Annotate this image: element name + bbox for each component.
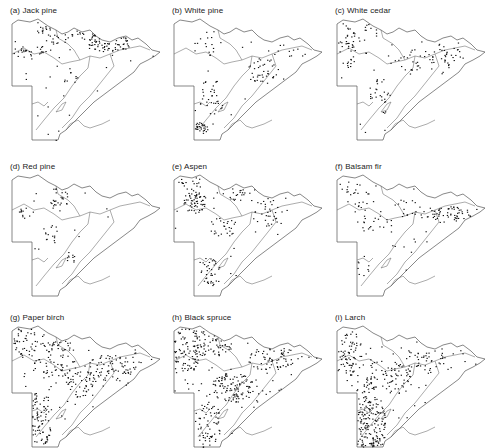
map-panel-i: (i) Larch [335, 313, 491, 448]
region-boundary [56, 30, 80, 60]
lake-outline [218, 258, 228, 268]
region-boundary [194, 258, 210, 262]
region-boundary [198, 363, 252, 437]
map-panel-a: (a) Jack pine [10, 6, 170, 156]
region-boundary [66, 120, 110, 130]
region-boundary [391, 427, 435, 437]
region-boundary [66, 427, 110, 437]
region-boundary [361, 212, 415, 286]
region-boundary [66, 276, 110, 286]
region-outline [174, 175, 322, 296]
region-outline [174, 19, 322, 140]
region-boundary [391, 120, 435, 130]
region-boundary [337, 202, 475, 220]
region-outline [12, 175, 160, 296]
lake-outline [381, 102, 391, 112]
region-boundary [36, 212, 90, 286]
region-map [335, 162, 491, 302]
region-boundary [56, 337, 80, 367]
region-boundary [228, 120, 272, 130]
region-boundary [337, 353, 475, 371]
lake-outline [56, 258, 66, 268]
region-outline [337, 175, 485, 296]
region-boundary [391, 276, 435, 286]
region-outline [12, 19, 160, 140]
map-panel-b: (b) White pine [172, 6, 332, 156]
region-map [172, 162, 332, 302]
occurrence-points [14, 329, 153, 445]
region-boundary [381, 30, 405, 60]
occurrence-points [175, 177, 288, 286]
map-panel-c: (c) White cedar [335, 6, 491, 156]
region-boundary [36, 56, 90, 130]
lake-outline [218, 102, 228, 112]
region-boundary [224, 54, 276, 128]
region-boundary [62, 54, 114, 128]
region-boundary [12, 353, 150, 371]
region-boundary [381, 186, 405, 216]
lake-outline [381, 258, 391, 268]
region-map [172, 313, 332, 448]
region-boundary [228, 276, 272, 286]
region-map [10, 6, 170, 146]
occurrence-points [338, 331, 477, 447]
region-map [335, 313, 491, 448]
map-panel-h: (h) Black spruce [172, 313, 332, 448]
map-panel-d: (d) Red pine [10, 162, 170, 312]
map-panel-g: (g) Paper birch [10, 313, 170, 448]
region-boundary [361, 363, 415, 437]
lake-outline [56, 102, 66, 112]
map-panel-e: (e) Aspen [172, 162, 332, 312]
region-boundary [218, 30, 242, 60]
region-boundary [56, 186, 80, 216]
region-map [10, 313, 170, 448]
region-boundary [381, 337, 405, 367]
region-boundary [228, 427, 272, 437]
region-boundary [12, 202, 150, 220]
region-map [10, 162, 170, 302]
region-boundary [357, 258, 373, 262]
region-boundary [62, 210, 114, 284]
region-boundary [32, 102, 48, 106]
region-map [172, 6, 332, 146]
region-boundary [218, 186, 242, 216]
lake-outline [381, 409, 391, 419]
region-boundary [32, 258, 48, 262]
map-panel-f: (f) Balsam fir [335, 162, 491, 312]
region-boundary [12, 46, 150, 64]
region-map [335, 6, 491, 146]
region-boundary [198, 56, 252, 130]
occurrence-points [194, 31, 305, 134]
lake-outline [218, 409, 228, 419]
region-boundary [224, 361, 276, 435]
lake-outline [56, 409, 66, 419]
region-boundary [174, 46, 312, 64]
occurrence-points [19, 189, 109, 263]
region-outline [337, 19, 485, 140]
region-boundary [357, 102, 373, 106]
region-boundary [387, 54, 439, 128]
